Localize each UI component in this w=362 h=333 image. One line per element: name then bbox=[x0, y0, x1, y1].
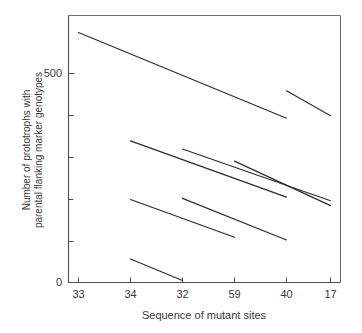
x-tick-label-59: 59 bbox=[228, 288, 240, 300]
x-tick-label-17: 17 bbox=[324, 288, 336, 300]
y-tick-label-0: 0 bbox=[56, 276, 62, 288]
x-axis-title: Sequence of mutant sites bbox=[142, 309, 267, 321]
y-axis-title-line1: Number of prototrophs with bbox=[21, 90, 32, 211]
data-line-segment-4 bbox=[183, 149, 331, 201]
data-line-segment-7 bbox=[183, 198, 287, 240]
x-tick-label-40: 40 bbox=[280, 288, 292, 300]
x-tick-label-34: 34 bbox=[124, 288, 136, 300]
x-axis-ticks bbox=[79, 278, 331, 283]
x-tick-label-33: 33 bbox=[72, 288, 84, 300]
y-axis-title-line2: parental flanking marker genotypes bbox=[33, 72, 44, 228]
data-line-group bbox=[79, 32, 331, 280]
data-line-segment-1 bbox=[79, 32, 287, 118]
plot-frame bbox=[69, 16, 341, 283]
y-axis-ticks bbox=[69, 74, 75, 283]
scatter-line-chart: 500 0 33 34 32 59 40 17 Sequence of muta… bbox=[0, 0, 362, 333]
y-tick-label-500: 500 bbox=[44, 67, 62, 79]
data-line-segment-8 bbox=[131, 259, 183, 280]
chart-page: 500 0 33 34 32 59 40 17 Sequence of muta… bbox=[0, 0, 362, 333]
data-line-segment-6 bbox=[131, 200, 235, 238]
x-tick-label-32: 32 bbox=[176, 288, 188, 300]
data-line-segment-3 bbox=[131, 141, 287, 197]
data-line-segment-2 bbox=[287, 91, 331, 116]
